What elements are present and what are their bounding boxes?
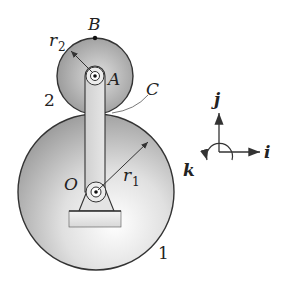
label-axis-j: j bbox=[211, 89, 221, 109]
ground-block bbox=[69, 211, 121, 227]
label-r2-sub: 2 bbox=[58, 40, 66, 54]
gear-diagram: B A C O r 2 r 1 2 1 j i k bbox=[0, 0, 289, 283]
coordinate-axes: j i k bbox=[183, 89, 270, 180]
label-gear-1: 1 bbox=[158, 243, 169, 263]
label-r1: r bbox=[123, 165, 132, 185]
pin-o-dot bbox=[94, 190, 98, 194]
label-o: O bbox=[64, 174, 78, 194]
label-r2: r bbox=[49, 30, 58, 50]
label-b: B bbox=[87, 14, 101, 34]
label-a: A bbox=[106, 69, 120, 89]
label-gear-2: 2 bbox=[44, 90, 55, 110]
label-axis-i: i bbox=[264, 142, 270, 162]
label-axis-k: k bbox=[183, 160, 195, 180]
label-c: C bbox=[146, 79, 159, 99]
pin-a-dot bbox=[93, 74, 97, 78]
label-r1-sub: 1 bbox=[132, 175, 140, 189]
point-b-dot bbox=[93, 36, 97, 40]
